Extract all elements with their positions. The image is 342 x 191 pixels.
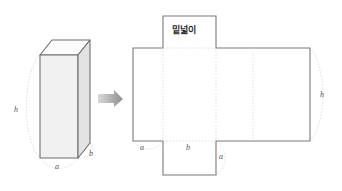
width-arc [40,158,78,169]
net-left-width-arc [133,141,163,149]
net-height-label: h [320,91,324,99]
base-area-label: 밑넓이 [172,26,196,35]
net-front-width-label: b [186,144,190,152]
net-right-width-label: a [219,153,223,161]
prism-faces [40,40,90,158]
prism-front-face [40,55,78,158]
geometry-illustration [0,0,342,191]
height-arc [27,55,41,158]
prism-width-label: a [55,163,59,171]
transform-arrow [98,90,123,107]
net-left-width-label: a [140,144,144,152]
figure-canvas: h a b 밑넓이 a b a h [0,0,342,191]
prism-right-face [78,40,90,158]
prism-depth-label: b [89,150,93,158]
arrow-shape [98,90,123,107]
prism-height-label: h [14,106,18,114]
